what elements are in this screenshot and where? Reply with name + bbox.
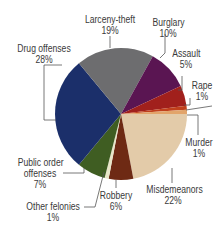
label-pct: 1% xyxy=(184,148,213,159)
label-name: Burglary xyxy=(153,17,184,28)
label-pct: 1% xyxy=(26,212,79,223)
label-larceny-theft: Larceny-theft 19% xyxy=(84,14,136,36)
label-burglary: Burglary 10% xyxy=(153,17,184,39)
label-public-order: Public order offenses 7% xyxy=(18,157,63,190)
label-pct: 10% xyxy=(153,28,184,39)
label-pct: 7% xyxy=(18,179,63,190)
label-name-line1: Public order xyxy=(18,157,63,168)
label-pct: 22% xyxy=(146,195,199,206)
label-murder: Murder 1% xyxy=(184,137,213,159)
label-pct: 28% xyxy=(16,54,71,65)
label-name: Other felonies xyxy=(26,201,79,212)
pie-slices xyxy=(55,48,187,180)
label-pct: 19% xyxy=(84,25,136,36)
label-robbery: Robbery 6% xyxy=(99,190,133,212)
label-other-felonies: Other felonies 1% xyxy=(26,201,79,223)
label-rape: Rape 1% xyxy=(192,80,213,102)
label-name: Misdemeanors xyxy=(146,184,199,195)
label-assault: Assault 5% xyxy=(172,48,200,70)
label-name: Larceny-theft xyxy=(84,14,136,25)
label-misdemeanors: Misdemeanors 22% xyxy=(146,184,199,206)
label-drug-offenses: Drug offenses 28% xyxy=(16,43,71,65)
label-pct: 1% xyxy=(192,91,213,102)
label-name: Assault xyxy=(172,48,200,59)
label-name-line2: offenses xyxy=(18,168,63,179)
label-name: Drug offenses xyxy=(16,43,71,54)
label-pct: 5% xyxy=(172,59,200,70)
label-name: Murder xyxy=(184,137,213,148)
label-name: Rape xyxy=(192,80,213,91)
label-name: Robbery xyxy=(99,190,133,201)
label-pct: 6% xyxy=(99,201,133,212)
